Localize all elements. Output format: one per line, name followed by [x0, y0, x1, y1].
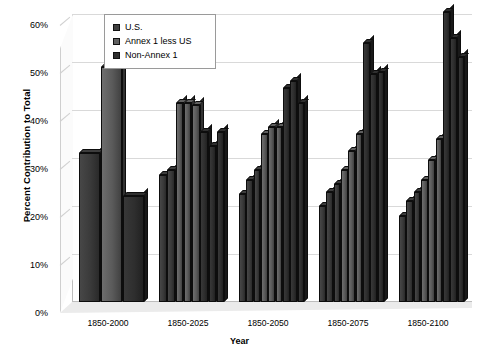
legend-swatch-icon — [113, 52, 120, 59]
bar-side-face — [144, 188, 148, 302]
bar-front-face — [421, 180, 428, 302]
legend-swatch-icon — [113, 24, 120, 31]
bar-front-face — [290, 81, 297, 302]
y-axis-tick-label: 50% — [8, 68, 48, 78]
legend-item: U.S. — [113, 21, 209, 34]
legend-item: Non-Annex 1 — [113, 49, 209, 62]
bar-top-face — [123, 192, 148, 196]
legend-label: Non-Annex 1 — [125, 51, 178, 60]
bar — [443, 12, 450, 302]
bar-side-face — [304, 95, 308, 302]
bar — [167, 170, 175, 302]
bar — [450, 38, 457, 302]
bar-front-face — [159, 175, 167, 302]
bar-front-face — [370, 74, 377, 302]
bar-front-face — [326, 192, 333, 302]
bar — [159, 175, 167, 302]
bar — [192, 105, 200, 302]
bar-front-face — [200, 132, 208, 302]
legend-item: Annex 1 less US — [113, 35, 209, 48]
bar — [217, 132, 225, 302]
bar — [276, 127, 283, 302]
bar — [254, 170, 261, 302]
bar — [421, 180, 428, 302]
y-axis-tick-label: 20% — [8, 212, 48, 222]
x-axis-tick-label: 1850-2050 — [232, 318, 304, 328]
bar — [101, 67, 122, 302]
bar-front-face — [428, 160, 435, 302]
y-axis-tick-labels: 0%10%20%30%40%50%60% — [8, 0, 48, 353]
y-axis-tick-label: 30% — [8, 164, 48, 174]
bar-front-face — [363, 43, 370, 302]
bar-front-face — [176, 103, 184, 302]
bar — [334, 184, 341, 302]
legend-label: Annex 1 less US — [125, 37, 192, 46]
bar — [356, 134, 363, 302]
y-axis-tick-label: 0% — [8, 308, 48, 318]
bar — [209, 146, 217, 302]
bar-front-face — [334, 184, 341, 302]
bar — [348, 151, 355, 302]
bar — [370, 74, 377, 302]
bar-front-face — [192, 105, 200, 302]
bar-front-face — [239, 194, 246, 302]
bar-front-face — [341, 170, 348, 302]
legend-swatch-icon — [113, 38, 120, 45]
bar — [363, 43, 370, 302]
x-axis-tick-label: 1850-2075 — [312, 318, 384, 328]
bar — [436, 139, 443, 302]
bar — [239, 194, 246, 302]
chart-floor — [60, 302, 472, 313]
bar-front-face — [450, 38, 457, 302]
bar — [406, 201, 413, 302]
bar — [290, 81, 297, 302]
bar-front-face — [356, 134, 363, 302]
bar — [176, 103, 184, 302]
bar-side-face — [464, 49, 468, 302]
bar-front-face — [414, 192, 421, 302]
bar — [200, 132, 208, 302]
x-axis-title: Year — [0, 336, 479, 346]
bar — [268, 127, 275, 302]
bar-front-face — [246, 180, 253, 302]
bar — [79, 153, 100, 302]
y-axis-tick-label: 10% — [8, 260, 48, 270]
bar-front-face — [268, 127, 275, 302]
bar-front-face — [276, 127, 283, 302]
bar-front-face — [298, 103, 305, 302]
bar-front-face — [254, 170, 261, 302]
bar-front-face — [399, 216, 406, 302]
bar-front-face — [406, 201, 413, 302]
bar-front-face — [319, 206, 326, 302]
gridline — [72, 110, 472, 111]
legend-label: U.S. — [125, 23, 143, 32]
bar — [283, 88, 290, 302]
bar-side-face — [224, 124, 228, 302]
bar — [246, 180, 253, 302]
bar — [298, 103, 305, 302]
bar-front-face — [436, 139, 443, 302]
bar-front-face — [443, 12, 450, 302]
bar — [261, 134, 268, 302]
y-axis-tick-label: 60% — [8, 20, 48, 30]
chart-legend: U.S.Annex 1 less USNon-Annex 1 — [104, 14, 216, 69]
bar-front-face — [283, 88, 290, 302]
bar-front-face — [123, 196, 144, 302]
bar-front-face — [184, 103, 192, 302]
bar-side-face — [384, 64, 388, 302]
bar-front-face — [209, 146, 217, 302]
bar-front-face — [167, 170, 175, 302]
bar — [458, 57, 465, 302]
bar-front-face — [101, 67, 122, 302]
bar — [326, 192, 333, 302]
bar — [414, 192, 421, 302]
bar — [399, 216, 406, 302]
bar — [428, 160, 435, 302]
bar-chart: Percent Contribution to Total 0%10%20%30… — [0, 0, 479, 353]
bar — [341, 170, 348, 302]
x-axis-tick-label: 1850-2025 — [152, 318, 224, 328]
bar-front-face — [458, 57, 465, 302]
bar-front-face — [348, 151, 355, 302]
y-axis-tick-label: 40% — [8, 116, 48, 126]
bar — [378, 72, 385, 302]
